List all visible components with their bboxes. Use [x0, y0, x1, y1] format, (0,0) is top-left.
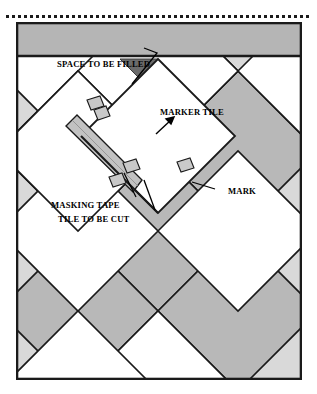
dotted-rule-svg: [6, 15, 311, 19]
illustration-frame: SPACE TO BE FILLED MARKER TILE MARK MASK…: [16, 22, 302, 380]
label-masking-tape: MASKING TAPE: [51, 201, 120, 210]
label-space-to-be-filled: SPACE TO BE FILLED: [57, 60, 150, 69]
label-mark: MARK: [228, 187, 256, 196]
label-tile-to-be-cut: TILE TO BE CUT: [58, 215, 130, 224]
label-marker-tile: MARKER TILE: [160, 108, 224, 117]
wall-band: [17, 23, 301, 56]
figure-page: SPACE TO BE FILLED MARKER TILE MARK MASK…: [0, 0, 317, 394]
dotted-rule-divider: [6, 5, 311, 9]
